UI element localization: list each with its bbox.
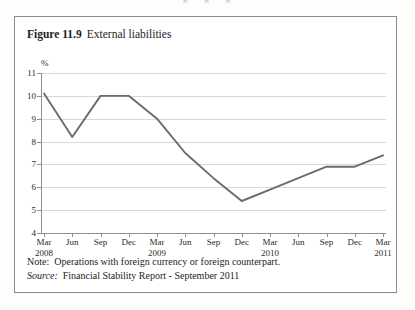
y-tick-label-5: 5	[32, 205, 37, 215]
x-tick-month: Jun	[179, 237, 192, 247]
page-bleed-text: g g g	[0, 0, 415, 13]
bleed-text-line: g g g	[183, 0, 238, 3]
figure-note-row: Note:Operations with foreign currency or…	[27, 255, 280, 269]
x-tick-label-9: Jun	[292, 237, 305, 248]
line-series-external-liabilities	[41, 73, 386, 233]
y-tick-label-6: 6	[32, 182, 37, 192]
x-tick-month: Dec	[348, 237, 363, 247]
x-tick-label-2: Sep	[94, 237, 108, 248]
x-tick-month: Dec	[235, 237, 250, 247]
x-tick-label-1: Jun	[66, 237, 79, 248]
figure-source-row: Source:Financial Stability Report - Sept…	[27, 269, 280, 283]
y-tick-label-7: 7	[32, 159, 37, 169]
source-label: Source:	[27, 270, 58, 281]
x-tick-label-5: Jun	[179, 237, 192, 248]
x-tick-month: Jun	[292, 237, 305, 247]
x-tick-label-7: Dec	[235, 237, 250, 248]
y-tick-label-8: 8	[32, 137, 37, 147]
x-tick-month: Sep	[320, 237, 334, 247]
x-tick-label-12: Mar2011	[374, 237, 392, 259]
x-tick-month: Jun	[66, 237, 79, 247]
figure-title: Figure 11.9External liabilities	[27, 28, 171, 40]
y-axis-unit-label: %	[41, 58, 49, 68]
figure-number: Figure 11.9	[27, 28, 82, 40]
x-tick-label-10: Sep	[320, 237, 334, 248]
source-text: Financial Stability Report - September 2…	[63, 270, 240, 281]
x-tick-month: Mar	[150, 237, 165, 247]
y-tick-label-9: 9	[32, 114, 37, 124]
chart-plot-area: 4567891011	[41, 73, 386, 233]
y-tick-label-11: 11	[27, 68, 36, 78]
x-tick-month: Dec	[122, 237, 137, 247]
series-polyline	[44, 94, 383, 201]
y-tick-label-10: 10	[27, 91, 36, 101]
figure-footer: Note:Operations with foreign currency or…	[27, 255, 280, 283]
x-tick-month: Sep	[207, 237, 221, 247]
figure-box: Figure 11.9External liabilities % 456789…	[14, 16, 397, 293]
x-tick-month: Mar	[263, 237, 278, 247]
note-text: Operations with foreign currency or fore…	[54, 256, 280, 267]
note-label: Note:	[27, 256, 49, 267]
x-tick-month: Mar	[375, 237, 390, 247]
x-tick-label-6: Sep	[207, 237, 221, 248]
x-tick-month: Sep	[94, 237, 108, 247]
x-tick-month: Mar	[37, 237, 52, 247]
x-tick-label-3: Dec	[122, 237, 137, 248]
x-tick-label-11: Dec	[348, 237, 363, 248]
document-page: g g g Figure 11.9External liabilities % …	[0, 0, 415, 310]
figure-name: External liabilities	[87, 28, 172, 40]
x-tick-year: 2011	[374, 248, 392, 259]
